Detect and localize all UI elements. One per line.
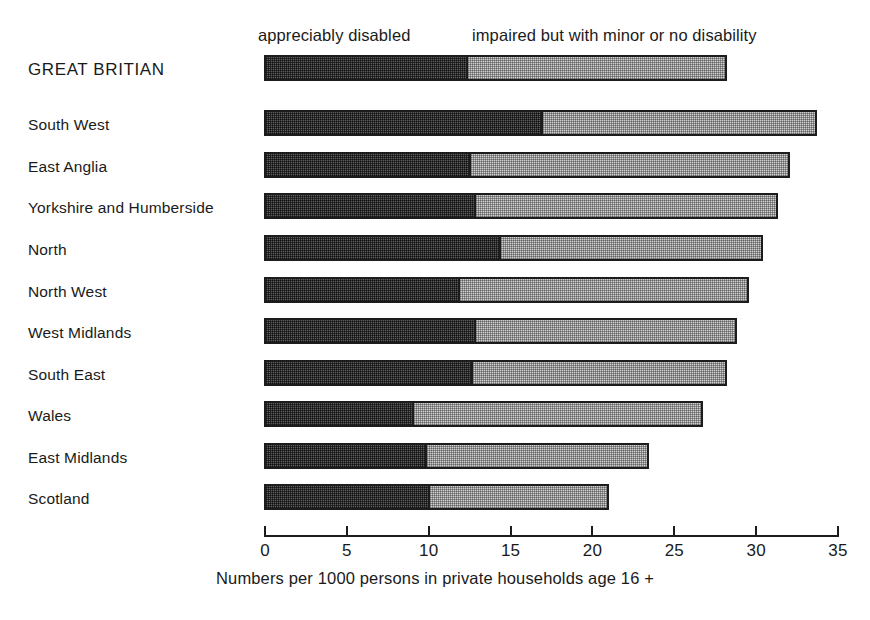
- category-label-south-west: South West: [28, 117, 256, 133]
- x-axis-tick-15: [510, 526, 512, 535]
- x-axis-tick-0: [264, 526, 266, 535]
- bar-row-south-east: [264, 360, 727, 386]
- x-axis-tick-label-35: 35: [818, 541, 858, 561]
- bar-row-north: [264, 235, 763, 261]
- bar-row-east-midlands: [264, 443, 649, 469]
- bar-segment-impaired-minor-or-no-disability-south-east: [472, 360, 727, 386]
- category-label-yorkshire-and-humberside: Yorkshire and Humberside: [28, 200, 256, 216]
- category-label-north: North: [28, 242, 256, 258]
- bar-segment-impaired-minor-or-no-disability-yorkshire-and-humberside: [475, 193, 778, 219]
- x-axis-tick-label-25: 25: [654, 541, 694, 561]
- category-label-south-east: South East: [28, 367, 256, 383]
- x-axis-title: Numbers per 1000 persons in private hous…: [0, 569, 870, 588]
- bar-segment-appreciably-disabled-great-britian: [264, 55, 467, 81]
- category-label-west-midlands: West Midlands: [28, 325, 256, 341]
- bar-segment-impaired-minor-or-no-disability-south-west: [542, 110, 817, 136]
- x-axis-tick-label-20: 20: [572, 541, 612, 561]
- x-axis-tick-25: [673, 526, 675, 535]
- category-label-scotland: Scotland: [28, 491, 256, 507]
- category-label-great-britian: GREAT BRITIAN: [28, 61, 256, 78]
- bar-segment-appreciably-disabled-scotland: [264, 484, 429, 510]
- bar-segment-appreciably-disabled-north-west: [264, 277, 459, 303]
- x-axis-line: [264, 535, 839, 537]
- legend-label-appreciably-disabled: appreciably disabled: [258, 26, 410, 45]
- bar-segment-impaired-minor-or-no-disability-wales: [413, 401, 703, 427]
- bar-row-wales: [264, 401, 703, 427]
- bar-segment-impaired-minor-or-no-disability-east-midlands: [426, 443, 649, 469]
- x-axis-tick-10: [428, 526, 430, 535]
- bar-row-west-midlands: [264, 318, 737, 344]
- bar-segment-impaired-minor-or-no-disability-great-britian: [467, 55, 727, 81]
- bar-row-south-west: [264, 110, 817, 136]
- x-axis-tick-label-5: 5: [327, 541, 367, 561]
- bar-segment-appreciably-disabled-yorkshire-and-humberside: [264, 193, 475, 219]
- bar-segment-impaired-minor-or-no-disability-scotland: [429, 484, 609, 510]
- category-label-east-anglia: East Anglia: [28, 159, 256, 175]
- x-axis-tick-label-0: 0: [245, 541, 285, 561]
- x-axis-tick-20: [591, 526, 593, 535]
- x-axis-tick-label-15: 15: [491, 541, 531, 561]
- chart-legend: appreciably disabled impaired but with m…: [258, 26, 858, 50]
- bar-row-great-britian: [264, 55, 727, 81]
- bar-segment-impaired-minor-or-no-disability-east-anglia: [470, 152, 789, 178]
- bar-segment-impaired-minor-or-no-disability-west-midlands: [475, 318, 737, 344]
- bar-segment-impaired-minor-or-no-disability-north: [500, 235, 764, 261]
- stacked-bar-chart: appreciably disabled impaired but with m…: [0, 0, 870, 620]
- legend-label-impaired-minor-or-no-disability: impaired but with minor or no disability: [472, 26, 757, 45]
- bar-row-east-anglia: [264, 152, 790, 178]
- category-label-wales: Wales: [28, 408, 256, 424]
- bar-segment-appreciably-disabled-east-anglia: [264, 152, 470, 178]
- x-axis-tick-label-10: 10: [409, 541, 449, 561]
- bar-row-scotland: [264, 484, 609, 510]
- x-axis-tick-30: [755, 526, 757, 535]
- bar-segment-appreciably-disabled-west-midlands: [264, 318, 475, 344]
- category-label-east-midlands: East Midlands: [28, 450, 256, 466]
- bar-segment-appreciably-disabled-north: [264, 235, 500, 261]
- x-axis-tick-35: [837, 526, 839, 535]
- x-axis-tick-5: [346, 526, 348, 535]
- bar-segment-impaired-minor-or-no-disability-north-west: [459, 277, 749, 303]
- bar-row-yorkshire-and-humberside: [264, 193, 778, 219]
- category-label-north-west: North West: [28, 284, 256, 300]
- x-axis-tick-label-30: 30: [736, 541, 776, 561]
- bar-segment-appreciably-disabled-south-west: [264, 110, 542, 136]
- bar-row-north-west: [264, 277, 749, 303]
- bar-segment-appreciably-disabled-east-midlands: [264, 443, 426, 469]
- bar-segment-appreciably-disabled-wales: [264, 401, 413, 427]
- bar-segment-appreciably-disabled-south-east: [264, 360, 472, 386]
